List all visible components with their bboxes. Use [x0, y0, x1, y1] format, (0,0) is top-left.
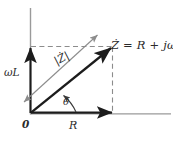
theta-label: θ	[63, 96, 69, 107]
origin-label: 0	[22, 118, 29, 130]
phasor-diagram-figure: Ż = R + jωL ωL |Ż| R θ 0	[0, 0, 173, 143]
omega-l-label: ωL	[4, 66, 20, 78]
resistance-label: R	[69, 119, 77, 132]
z-equation-label: Ż = R + jωL	[111, 38, 173, 52]
